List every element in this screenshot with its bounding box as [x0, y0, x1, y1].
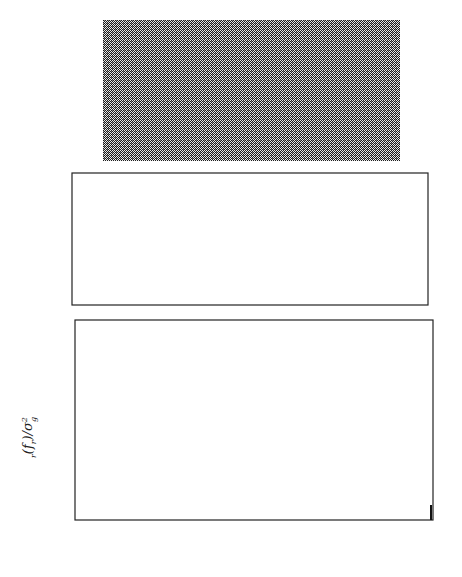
bottom-plot-frame [75, 320, 433, 520]
bottom-ylabel: r(fr)/σ2g [20, 417, 38, 458]
plots-canvas [0, 0, 462, 577]
top-plot-frame [72, 173, 428, 305]
